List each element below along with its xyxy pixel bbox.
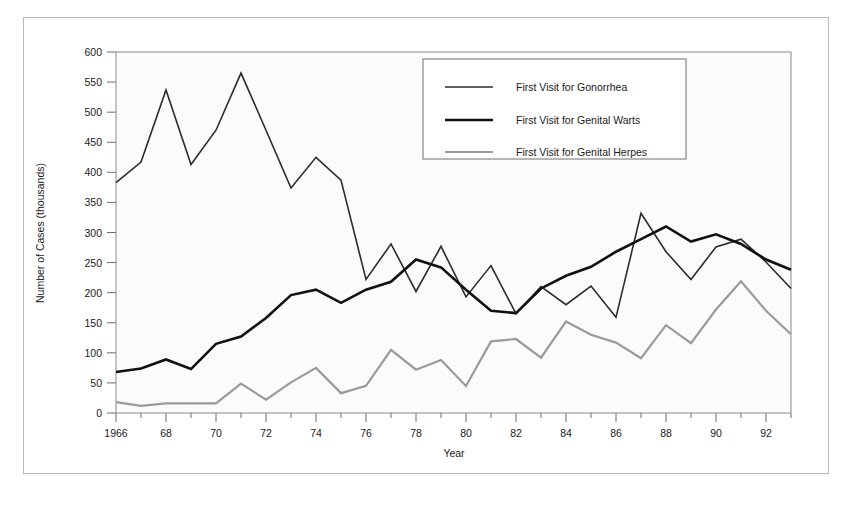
x-tick-label: 92: [760, 427, 772, 439]
y-tick-label: 450: [84, 136, 102, 148]
y-tick-label: 500: [84, 106, 102, 118]
x-tick-label: 76: [360, 427, 372, 439]
x-tick-label: 88: [660, 427, 672, 439]
x-tick-label: 78: [410, 427, 422, 439]
y-tick-label: 400: [84, 166, 102, 178]
figure-page: 050100150200250300350400450500550600 196…: [0, 0, 852, 508]
x-tick-label: 80: [460, 427, 472, 439]
figure-frame: 050100150200250300350400450500550600 196…: [23, 17, 829, 474]
y-tick-label: 100: [84, 347, 102, 359]
x-tick-label: 1966: [104, 427, 128, 439]
y-tick-label: 200: [84, 287, 102, 299]
y-tick-label: 150: [84, 317, 102, 329]
y-tick-label: 350: [84, 196, 102, 208]
y-axis-ticks: 050100150200250300350400450500550600: [84, 46, 116, 419]
x-tick-label: 74: [310, 427, 322, 439]
y-tick-label: 300: [84, 227, 102, 239]
y-axis-title: Number of Cases (thousands): [34, 163, 46, 303]
y-tick-label: 550: [84, 76, 102, 88]
y-tick-label: 0: [96, 407, 102, 419]
x-tick-label: 70: [210, 427, 222, 439]
y-tick-label: 50: [90, 377, 102, 389]
x-axis-ticks: 196668707274767880828486889092: [104, 413, 791, 439]
legend-label-2: First Visit for Genital Herpes: [516, 146, 647, 158]
y-tick-label: 250: [84, 257, 102, 269]
x-tick-label: 86: [610, 427, 622, 439]
legend-label-1: First Visit for Genital Warts: [516, 114, 640, 126]
x-tick-label: 82: [510, 427, 522, 439]
chart-legend: First Visit for GonorrheaFirst Visit for…: [423, 59, 686, 159]
x-tick-label: 84: [560, 427, 572, 439]
line-chart: 050100150200250300350400450500550600 196…: [24, 18, 830, 475]
x-axis-title: Year: [443, 447, 465, 459]
legend-label-0: First Visit for Gonorrhea: [516, 81, 627, 93]
y-tick-label: 600: [84, 46, 102, 58]
legend-box: [423, 59, 686, 159]
x-tick-label: 72: [260, 427, 272, 439]
x-tick-label: 68: [160, 427, 172, 439]
x-tick-label: 90: [710, 427, 722, 439]
